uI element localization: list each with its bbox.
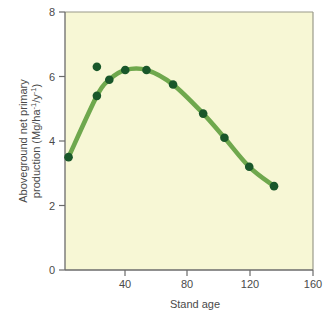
y-tick-label-6: 6 [49, 71, 55, 83]
y-axis-title-line2: production (Mg/ha-1/y-1) [29, 84, 42, 198]
data-point [93, 92, 102, 101]
y-tick-label-8: 8 [49, 6, 55, 18]
y-axis-unit-prefix: production (Mg/ha [30, 109, 42, 199]
data-point [199, 109, 208, 118]
chart-figure: 0 2 4 6 8 40 80 120 160 Stand age Aboveg… [0, 0, 333, 316]
y-axis-unit-sup1: -1 [29, 103, 38, 110]
y-axis-title: Aboveground net primary production (Mg/h… [17, 79, 42, 203]
x-tick-label-80: 80 [181, 278, 193, 290]
x-tick-label-120: 120 [241, 278, 259, 290]
y-axis-unit-sup2: -1 [29, 88, 38, 95]
y-axis-title-line1: Aboveground net primary [17, 79, 29, 203]
y-axis-unit-suffix: ) [30, 84, 42, 88]
plot-area-background [65, 12, 313, 270]
data-point [64, 153, 73, 162]
y-tick-label-2: 2 [49, 200, 55, 212]
data-point [105, 75, 114, 84]
data-point [245, 163, 254, 172]
data-point [121, 66, 130, 75]
data-point [220, 133, 229, 142]
x-tick-label-40: 40 [119, 278, 131, 290]
data-point [270, 182, 279, 191]
x-tick-label-160: 160 [304, 278, 322, 290]
data-point [169, 80, 178, 89]
y-tick-label-0: 0 [49, 264, 55, 276]
data-point [93, 63, 102, 72]
y-tick-label-4: 4 [49, 135, 55, 147]
data-point [142, 66, 151, 75]
x-axis-title: Stand age [170, 298, 220, 310]
